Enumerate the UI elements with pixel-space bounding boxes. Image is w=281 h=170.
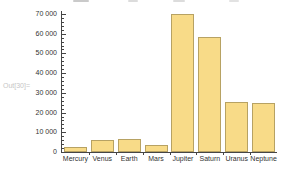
bar-mars [145,145,168,152]
y-minor-tick [62,81,64,82]
y-minor-tick [62,30,64,31]
y-minor-tick [62,69,64,70]
y-minor-tick [62,89,64,90]
y-minor-tick [62,105,64,106]
y-minor-tick [62,77,64,78]
y-major-tick [62,34,66,35]
y-minor-tick [62,124,64,125]
y-tick-label: 50 000 [8,49,57,57]
y-tick-label: 10 000 [8,128,57,136]
y-minor-tick [62,136,64,137]
y-major-tick [62,113,66,114]
y-minor-tick [62,148,64,149]
y-minor-tick [62,26,64,27]
bar-chart[interactable]: 010 00020 00030 00040 00050 00060 00070 … [0,0,281,170]
y-major-tick [62,132,66,133]
y-tick-label: 20 000 [8,109,57,117]
y-tick-label: 60 000 [8,30,57,38]
bar-saturn [198,37,221,152]
y-tick-label: 70 000 [8,10,57,18]
y-minor-tick [62,49,64,50]
bar-neptune [252,103,275,152]
y-minor-tick [62,101,64,102]
x-category-label: Neptune [214,155,281,163]
bar-jupiter [171,14,194,152]
notebook-output-cell: Out[30]= 010 00020 00030 00040 00050 000… [0,0,281,170]
y-tick-label: 40 000 [8,69,57,77]
y-minor-tick [62,22,64,23]
y-minor-tick [62,38,64,39]
y-minor-tick [62,128,64,129]
y-major-tick [62,93,66,94]
y-minor-tick [62,65,64,66]
y-minor-tick [62,46,64,47]
y-major-tick [62,14,66,15]
bar-earth [118,139,141,152]
y-major-tick [62,53,66,54]
y-minor-tick [62,61,64,62]
y-tick-label: 30 000 [8,89,57,97]
y-minor-tick [62,120,64,121]
y-minor-tick [62,85,64,86]
y-minor-tick [62,109,64,110]
y-major-tick [62,73,66,74]
y-minor-tick [62,140,64,141]
y-minor-tick [62,57,64,58]
bar-venus [91,140,114,152]
bar-uranus [225,102,248,152]
y-minor-tick [62,117,64,118]
y-minor-tick [62,42,64,43]
y-minor-tick [62,144,64,145]
y-minor-tick [62,18,64,19]
y-minor-tick [62,97,64,98]
